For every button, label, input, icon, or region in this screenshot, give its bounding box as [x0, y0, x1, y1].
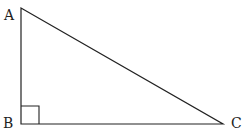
right-angle-marker: [21, 106, 39, 124]
triangle-abc: [21, 8, 223, 124]
vertex-label-c: C: [231, 115, 242, 129]
vertex-label-a: A: [3, 7, 15, 23]
triangle-diagram: A B C: [0, 0, 243, 129]
vertex-label-b: B: [3, 115, 13, 129]
